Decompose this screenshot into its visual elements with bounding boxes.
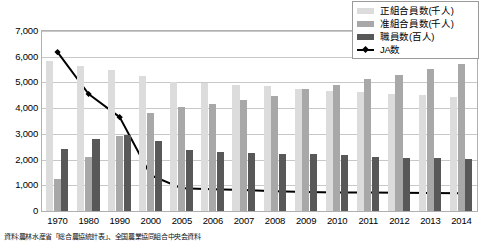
- bar: [357, 92, 364, 211]
- x-tick-label: 1990: [104, 215, 135, 226]
- bar: [403, 158, 410, 211]
- bar: [372, 157, 379, 211]
- bar: [186, 150, 193, 211]
- legend-label: JA数: [380, 44, 400, 55]
- bar: [178, 107, 185, 211]
- y-tick-label: 0: [2, 206, 38, 216]
- bar: [92, 139, 99, 212]
- x-tick-label: 2000: [135, 215, 166, 226]
- bar: [458, 64, 465, 211]
- bar: [240, 100, 247, 211]
- bar: [124, 135, 131, 211]
- y-tick-label: 7,000: [2, 26, 38, 36]
- y-tick-label: 1,000: [2, 180, 38, 190]
- bar: [116, 136, 123, 211]
- bar: [232, 85, 239, 211]
- legend-label: 准組合員数(千人): [380, 18, 454, 29]
- bar: [341, 155, 348, 211]
- bar: [248, 153, 255, 211]
- x-tick-label: 2010: [322, 215, 353, 226]
- bar: [427, 69, 434, 211]
- legend-item[interactable]: 准組合員数(千人): [357, 17, 473, 30]
- bar: [388, 94, 395, 212]
- x-tick-label: 2014: [446, 215, 477, 226]
- legend-line-marker-icon: [357, 47, 374, 53]
- x-tick-label: 2011: [353, 215, 384, 226]
- chart-container: 7,0006,0005,0004,0003,0002,0001,0000 197…: [0, 0, 481, 241]
- bar: [46, 61, 53, 211]
- y-tick-label: 3,000: [2, 129, 38, 139]
- legend: 正組合員数(千人)准組合員数(千人)職員数(百人)JA数: [352, 1, 479, 59]
- line-marker: [85, 91, 91, 97]
- x-tick-label: 1970: [42, 215, 73, 226]
- bar: [201, 83, 208, 211]
- y-tick-label: 6,000: [2, 52, 38, 62]
- y-tick-label: 5,000: [2, 77, 38, 87]
- bar: [61, 149, 68, 211]
- bar: [279, 154, 286, 211]
- bar: [77, 66, 84, 211]
- x-tick-label: 2007: [228, 215, 259, 226]
- bar: [217, 152, 224, 211]
- legend-swatch-icon: [357, 34, 374, 40]
- bar: [54, 179, 61, 211]
- legend-item[interactable]: 正組合員数(千人): [357, 4, 473, 17]
- bar: [465, 159, 472, 211]
- legend-label: 職員数(百人): [380, 31, 434, 42]
- x-tick-label: 2009: [291, 215, 322, 226]
- y-axis: 7,0006,0005,0004,0003,0002,0001,0000: [0, 0, 38, 241]
- legend-swatch-icon: [357, 21, 374, 27]
- legend-item[interactable]: 職員数(百人): [357, 30, 473, 43]
- bar: [310, 154, 317, 211]
- bar: [155, 141, 162, 211]
- bar: [264, 86, 271, 211]
- bar: [295, 89, 302, 211]
- bar: [85, 157, 92, 211]
- bar: [364, 79, 371, 211]
- legend-swatch-icon: [357, 8, 374, 14]
- bar: [326, 91, 333, 211]
- bar: [209, 104, 216, 211]
- bar: [271, 96, 278, 211]
- bar: [419, 95, 426, 211]
- x-tick-label: 2013: [415, 215, 446, 226]
- bar: [108, 70, 115, 211]
- legend-item[interactable]: JA数: [357, 43, 473, 56]
- source-footnote: 資料:農林水産省「総合農協統計表」、全国農業協同組合中央会資料: [4, 233, 478, 241]
- bar: [302, 89, 309, 211]
- bar: [450, 97, 457, 211]
- x-tick-label: 2006: [197, 215, 228, 226]
- x-tick-label: 2008: [260, 215, 291, 226]
- x-tick-label: 1980: [73, 215, 104, 226]
- x-tick-label: 2005: [166, 215, 197, 226]
- line-marker: [117, 114, 123, 120]
- legend-label: 正組合員数(千人): [380, 5, 454, 16]
- bar: [333, 85, 340, 211]
- bar: [434, 158, 441, 211]
- line-marker: [54, 49, 60, 55]
- y-tick-label: 2,000: [2, 155, 38, 165]
- bar: [170, 82, 177, 211]
- y-tick-label: 4,000: [2, 103, 38, 113]
- bar: [147, 113, 154, 211]
- x-tick-label: 2012: [384, 215, 415, 226]
- bar: [139, 76, 146, 211]
- bar: [395, 75, 402, 211]
